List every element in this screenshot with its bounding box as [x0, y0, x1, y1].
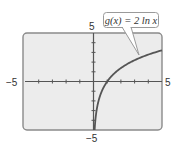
y-max-label: 5 [89, 21, 95, 32]
y-min-label: −5 [86, 133, 98, 144]
x-max-label: 5 [165, 77, 171, 88]
x-min-label: −5 [6, 77, 18, 88]
chart: −5 5 5 −5 g(x) = 2 ln x [0, 0, 176, 148]
callout-label: g(x) = 2 ln x [105, 15, 158, 27]
callout-joint [123, 26, 131, 28]
